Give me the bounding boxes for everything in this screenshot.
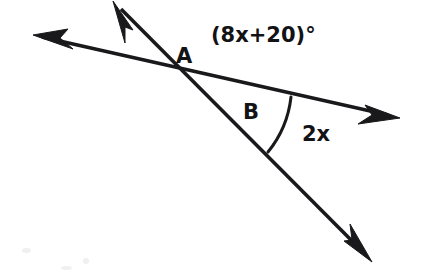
arrow-up-left-icon — [113, 1, 133, 43]
angle-2x-arc — [268, 97, 291, 152]
angle-label-2x: 2x — [302, 124, 330, 145]
angle-expression-label: (8x+20)° — [211, 25, 316, 46]
vertex-label-a: A — [176, 46, 192, 67]
angle-diagram-figure: A (8x+20)° B 2x — [0, 0, 432, 280]
arrow-down-right-icon — [344, 224, 372, 262]
angle-label-b: B — [243, 102, 259, 123]
arrow-left-icon — [33, 29, 73, 49]
